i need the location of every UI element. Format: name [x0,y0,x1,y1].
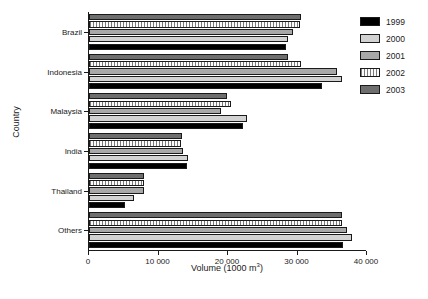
y-axis-category-label: Others [58,226,82,235]
legend-item: 1999 [360,13,426,30]
legend-label: 2001 [386,51,405,61]
legend-swatch-icon [360,34,380,43]
x-axis-tick [227,251,228,255]
bar [89,108,221,114]
bar [89,220,342,226]
y-axis-category-label: Indonesia [47,67,82,76]
bar [89,148,183,154]
y-axis-tick [84,111,88,112]
bar [89,44,286,50]
plot-area: 010 00020 00030 00040 000 BrazilIndonesi… [88,12,366,250]
bar [89,180,144,186]
bar [89,202,125,208]
bar [89,54,288,60]
bar [89,173,144,179]
bar [89,115,247,121]
x-axis-tick [158,251,159,255]
bar [89,234,352,240]
legend-item: 2001 [360,47,426,64]
y-axis-title: Country [11,87,21,157]
bar [89,29,293,35]
x-axis-tick [366,251,367,255]
bar [89,76,342,82]
y-axis-category-label: Malaysia [50,107,82,116]
bar [89,21,300,27]
bar [89,61,301,67]
bar [89,212,342,218]
bar [89,187,144,193]
x-axis-title: Volume (1000 m3) [88,262,366,273]
y-axis-tick [84,151,88,152]
legend-label: 2002 [386,68,405,78]
legend-swatch-icon [360,17,380,26]
legend-label: 2000 [386,34,405,44]
bar [89,14,301,20]
bar [89,227,347,233]
bar [89,163,187,169]
legend-item: 2002 [360,64,426,81]
bar [89,155,188,161]
legend-swatch-icon [360,85,380,94]
y-axis-category-label: India [65,146,82,155]
y-axis-tick [84,230,88,231]
legend-label: 1999 [386,17,405,27]
bar [89,93,227,99]
x-axis-tick [297,251,298,255]
y-axis-tick [84,72,88,73]
bar-chart: 010 00020 00030 00040 000 BrazilIndonesi… [0,0,428,299]
legend-swatch-icon [360,51,380,60]
y-axis-tick [84,32,88,33]
legend-label: 2003 [386,85,405,95]
chart-legend: 19992000200120022003 [360,13,426,98]
y-axis-category-label: Brazil [62,27,82,36]
bar [89,36,288,42]
y-axis-tick [84,191,88,192]
legend-item: 2000 [360,30,426,47]
legend-item: 2003 [360,81,426,98]
bar [89,123,243,129]
y-axis-category-label: Thailand [51,186,82,195]
bar [89,140,181,146]
bar [89,242,343,248]
bar [89,68,337,74]
bar [89,101,231,107]
bar [89,83,322,89]
x-axis-tick [88,251,89,255]
bar [89,195,134,201]
legend-swatch-icon [360,68,380,77]
bar [89,133,182,139]
